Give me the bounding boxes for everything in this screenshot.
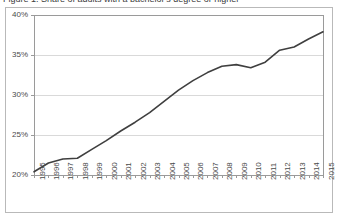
x-axis-tick-label: 1995	[38, 162, 47, 180]
line-chart: 20%25%30%35%40% 199519961997199819992000…	[0, 0, 340, 220]
y-axis-tick-label: 30%	[2, 90, 28, 99]
x-axis-tick-label: 2000	[110, 162, 119, 180]
chart-gridlines	[34, 15, 323, 175]
x-axis-tick-label: 2011	[269, 163, 278, 180]
y-axis-tick-label: 35%	[2, 50, 28, 59]
x-axis-tick-label: 1999	[95, 162, 104, 180]
x-axis-tick-label: 2015	[327, 162, 336, 180]
x-axis-tick-label: 1998	[81, 162, 90, 180]
x-axis-tick-label: 2013	[298, 162, 307, 180]
x-axis-tick-label: 1997	[66, 162, 75, 180]
x-axis-tick-label: 2004	[168, 162, 177, 180]
y-axis-tick-label: 20%	[2, 170, 28, 179]
x-axis-tick-label: 2012	[283, 162, 292, 180]
chart-x-tickmarks	[31, 16, 324, 179]
x-axis-tick-label: 2003	[153, 162, 162, 180]
x-axis-tick-label: 2006	[196, 162, 205, 180]
x-axis-tick-label: 2009	[240, 162, 249, 180]
x-axis-tick-label: 2005	[182, 162, 191, 180]
data-series-line	[34, 32, 323, 172]
y-axis-tick-label: 25%	[2, 130, 28, 139]
x-axis-tick-label: 2002	[139, 162, 148, 180]
x-axis-tick-label: 2001	[124, 162, 133, 180]
chart-screenshot: Figure 1. Share of adults with a bachelo…	[0, 0, 340, 220]
chart-plot-svg	[0, 0, 340, 220]
x-axis-tick-label: 2007	[211, 162, 220, 180]
x-axis-tick-label: 2010	[254, 162, 263, 180]
x-axis-tick-label: 2014	[312, 162, 321, 180]
chart-data-line	[34, 32, 323, 172]
y-axis-tick-label: 40%	[2, 10, 28, 19]
x-axis-tick-label: 2008	[225, 162, 234, 180]
x-axis-tick-label: 1996	[52, 162, 61, 180]
